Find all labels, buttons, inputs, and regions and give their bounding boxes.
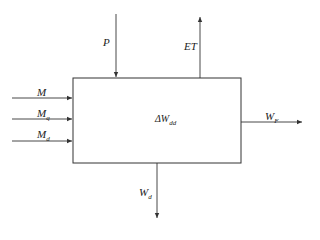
label-m: M — [37, 86, 46, 98]
label-mq: Mq — [37, 107, 50, 122]
label-delta-w: ΔWdd — [155, 113, 176, 127]
label-md: Md — [37, 128, 50, 143]
label-et: ET — [184, 40, 197, 52]
label-wf: WF — [265, 110, 278, 125]
label-p: P — [103, 36, 110, 48]
label-wd: Wd — [139, 186, 152, 201]
